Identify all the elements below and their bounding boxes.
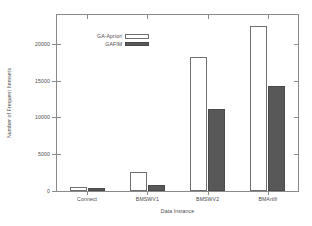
bar-bmswv1-ga-apriori bbox=[130, 172, 147, 191]
x-axis-tick bbox=[147, 191, 148, 195]
x-axis-tick-label: BMSWV1 bbox=[136, 196, 159, 202]
x-axis-tick bbox=[268, 191, 269, 195]
y-axis-tick-right bbox=[294, 154, 298, 155]
x-axis-tick-label: Connect bbox=[77, 196, 97, 202]
x-axis-tick bbox=[87, 191, 88, 195]
x-axis-tick-label: BMSWV2 bbox=[196, 196, 219, 202]
chart-legend: GA-Apriori GAFIM bbox=[97, 32, 149, 48]
y-axis-tick-inner bbox=[57, 191, 61, 192]
bar-bmswv2-ga-apriori bbox=[190, 57, 207, 191]
y-axis-tick-inner bbox=[57, 154, 61, 155]
y-axis-title-text: Number of Frequent Itemsets bbox=[6, 68, 12, 138]
legend-item-gafim: GAFIM bbox=[97, 40, 149, 48]
legend-swatch-ga-apriori bbox=[125, 34, 149, 39]
y-axis-tick-inner bbox=[57, 44, 61, 45]
y-axis-tick-inner bbox=[57, 117, 61, 118]
y-axis-tick-label: 20000 bbox=[35, 41, 50, 47]
bar-chart-figure: Number of Frequent Itemsets GA-Apriori G… bbox=[0, 0, 312, 226]
y-axis-tick-label: 15000 bbox=[35, 78, 50, 84]
y-axis-tick-inner bbox=[57, 81, 61, 82]
bar-bmartifi-ga-apriori bbox=[250, 26, 267, 191]
x-axis-title: Data Instance bbox=[56, 208, 299, 214]
bar-bmswv1-gafim bbox=[148, 185, 165, 191]
y-axis-tick-label: 0 bbox=[47, 188, 50, 194]
plot-area: GA-Apriori GAFIM 05000100001500020000Con… bbox=[56, 14, 299, 192]
x-axis-tick bbox=[208, 191, 209, 195]
x-axis-tick-top bbox=[208, 15, 209, 19]
bar-bmartifi-gafim bbox=[268, 86, 285, 191]
y-axis-tick-right bbox=[294, 117, 298, 118]
x-axis-tick-label: BMArtifi bbox=[258, 196, 277, 202]
y-axis-title: Number of Frequent Itemsets bbox=[4, 14, 14, 192]
x-axis-tick-top bbox=[268, 15, 269, 19]
legend-label-ga-apriori: GA-Apriori bbox=[97, 33, 122, 39]
bar-bmswv2-gafim bbox=[208, 109, 225, 191]
y-axis-tick-label: 5000 bbox=[38, 151, 50, 157]
bar-connect-gafim bbox=[88, 188, 105, 191]
y-axis-tick-right bbox=[294, 191, 298, 192]
x-axis-tick-top bbox=[87, 15, 88, 19]
y-axis-tick-right bbox=[294, 81, 298, 82]
legend-label-gafim: GAFIM bbox=[105, 41, 122, 47]
y-axis-tick-label: 10000 bbox=[35, 114, 50, 120]
y-axis-tick-right bbox=[294, 44, 298, 45]
legend-item-ga-apriori: GA-Apriori bbox=[97, 32, 149, 40]
x-axis-tick-top bbox=[147, 15, 148, 19]
legend-swatch-gafim bbox=[125, 42, 149, 46]
bar-connect-ga-apriori bbox=[70, 187, 87, 191]
